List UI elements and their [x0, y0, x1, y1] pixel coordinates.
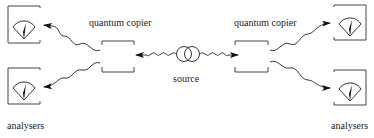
label-source: source	[173, 73, 200, 84]
wave-source-to-right-copier	[200, 53, 238, 56]
wave-copier-to-right-bottom	[270, 61, 330, 88]
meter-gauge-icon	[339, 83, 361, 101]
wave-copier-to-left-bottom	[44, 63, 100, 87]
label-analysers-right: analysers	[331, 120, 368, 131]
label-copier-right: quantum copier	[234, 17, 297, 28]
label-copier-left: quantum copier	[89, 17, 152, 28]
copier-right	[235, 41, 268, 72]
quantum-copier-diagram: quantum copier quantum copier source ana…	[0, 0, 374, 138]
wave-source-to-left-copier	[136, 53, 176, 56]
meter-gauge-icon	[13, 82, 35, 100]
wave-copier-to-left-top	[44, 25, 100, 51]
analyser-right-top	[334, 5, 366, 40]
entangled-source-icon	[177, 47, 200, 62]
copier-left	[102, 41, 134, 72]
analyser-right-bottom	[334, 70, 366, 105]
analyser-left-top	[8, 6, 40, 43]
meter-gauge-icon	[339, 18, 361, 36]
label-analysers-left: analysers	[7, 120, 44, 131]
analyser-left-bottom	[8, 68, 40, 104]
meter-gauge-icon	[13, 21, 35, 39]
